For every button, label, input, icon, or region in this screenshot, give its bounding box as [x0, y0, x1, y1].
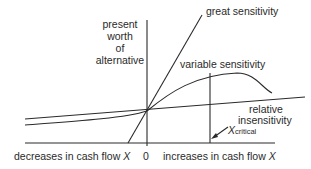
- x-left-var: X: [123, 150, 130, 162]
- x-left-text: decreases in cash flow: [14, 150, 123, 162]
- x-axis-left-label: decreases in cash flow X: [14, 150, 130, 162]
- y-label-line: of: [92, 42, 148, 54]
- diagram-canvas: [0, 0, 311, 169]
- x-axis-right-label: increases in cash flow X: [163, 150, 276, 162]
- x-right-text: increases in cash flow: [163, 150, 269, 162]
- y-label-line: present: [92, 18, 148, 30]
- variable-sensitivity-label: variable sensitivity: [180, 58, 265, 70]
- x-critical-var: X: [228, 124, 235, 136]
- x-critical-subscript: critical: [235, 127, 256, 136]
- arrowhead-icon: [211, 133, 218, 139]
- x-critical-label: Xcritical: [228, 124, 256, 138]
- y-label-line: worth: [92, 30, 148, 42]
- x-right-var: X: [269, 150, 276, 162]
- y-axis-label: present worth of alternative: [92, 18, 148, 66]
- great-sensitivity-label: great sensitivity: [206, 5, 278, 17]
- y-label-line: alternative: [92, 54, 148, 66]
- origin-label: 0: [143, 150, 149, 162]
